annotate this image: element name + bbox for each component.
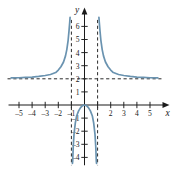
y-tick-label: 3 <box>76 62 80 71</box>
axes-group <box>9 7 170 165</box>
y-tick-label: 6 <box>76 22 80 31</box>
right-branch <box>99 17 158 78</box>
x-tick-label: –2 <box>54 109 63 118</box>
y-tick-label: 4 <box>76 49 80 58</box>
coordinate-plane: –5–4–3–2–12345 –4–3–2–1123456 x y <box>0 0 179 180</box>
x-axis-label: x <box>164 108 170 118</box>
x-tick-label: –4 <box>27 109 36 118</box>
x-tick-label: –3 <box>40 109 49 118</box>
x-axis-ticks: –5–4–3–2–12345 <box>14 102 152 119</box>
left-branch <box>11 17 70 78</box>
y-tick-label: 1 <box>76 88 80 97</box>
x-tick-label: 3 <box>122 109 126 118</box>
x-tick-label: 4 <box>135 109 139 118</box>
x-tick-label: –5 <box>14 109 23 118</box>
y-tick-label: –3 <box>71 140 80 149</box>
x-tick-label: 2 <box>109 109 113 118</box>
x-tick-label: 5 <box>148 109 152 118</box>
y-axis-label: y <box>74 5 80 15</box>
y-tick-label: 5 <box>76 35 80 44</box>
y-axis-arrowhead <box>82 7 88 14</box>
graph-figure: –5–4–3–2–12345 –4–3–2–1123456 x y <box>0 0 179 180</box>
